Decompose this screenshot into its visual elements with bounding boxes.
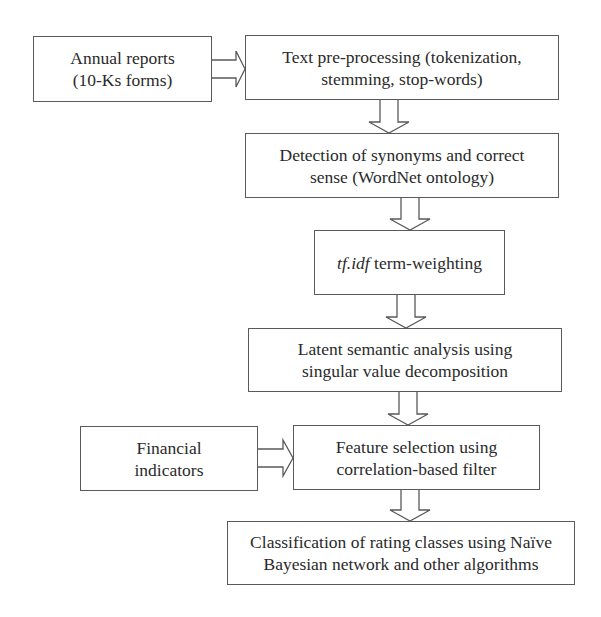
- node-text-preprocessing: Text pre-processing (tokenization, stemm…: [245, 35, 559, 100]
- node-label-line: correlation-based filter: [336, 458, 497, 480]
- tfidf-italic-label: tf.idf: [337, 253, 370, 273]
- arrow-down-icon: [390, 490, 430, 521]
- node-label-line: Bayesian network and other algorithms: [250, 553, 552, 575]
- node-label-line: singular value decomposition: [298, 360, 512, 382]
- node-feature-selection: Feature selection using correlation-base…: [293, 425, 540, 490]
- node-label-line: stemming, stop-words): [282, 68, 521, 90]
- node-label-line: Detection of synonyms and correct: [280, 144, 525, 166]
- flowchart-canvas: Annual reports (10-Ks forms) Text pre-pr…: [0, 0, 601, 617]
- arrow-right-icon: [258, 440, 293, 476]
- node-classification: Classification of rating classes using N…: [227, 521, 575, 585]
- node-label-line: Annual reports: [70, 47, 175, 69]
- arrow-down-icon: [386, 295, 426, 328]
- node-label-line: (10-Ks forms): [70, 69, 175, 91]
- node-label-line: Financial: [134, 437, 203, 459]
- node-latent-semantic-analysis: Latent semantic analysis using singular …: [248, 328, 562, 392]
- node-label-line: Feature selection using: [336, 436, 497, 458]
- node-tfidf-weighting: tf.idf term-weighting: [314, 230, 505, 295]
- node-annual-reports: Annual reports (10-Ks forms): [33, 36, 212, 102]
- node-label-line: indicators: [134, 459, 203, 481]
- node-synonym-detection: Detection of synonyms and correct sense …: [245, 133, 559, 198]
- node-label-line: Text pre-processing (tokenization,: [282, 46, 521, 68]
- node-label-line: Classification of rating classes using N…: [250, 531, 552, 553]
- tfidf-rest-label: term-weighting: [370, 253, 482, 273]
- arrow-right-icon: [212, 51, 245, 87]
- arrow-down-icon: [369, 100, 409, 133]
- node-label-line: sense (WordNet ontology): [280, 166, 525, 188]
- node-label-line: Latent semantic analysis using: [298, 338, 512, 360]
- node-financial-indicators: Financial indicators: [80, 426, 258, 491]
- arrow-down-icon: [388, 392, 428, 425]
- arrow-down-icon: [390, 198, 430, 230]
- node-label-line: tf.idf term-weighting: [337, 252, 482, 274]
